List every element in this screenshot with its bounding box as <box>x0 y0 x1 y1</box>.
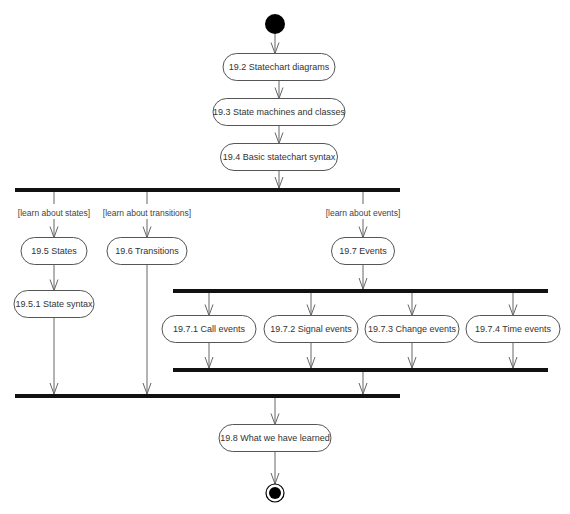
activity-node: 19.2 Statechart diagrams <box>223 54 335 81</box>
activity-node: 19.5.1 State syntax <box>14 291 94 318</box>
transition-arrow <box>408 343 416 369</box>
node-label: 19.6 Transitions <box>115 246 179 256</box>
final-node-icon <box>266 484 284 502</box>
node-label: 19.4 Basic statechart syntax <box>223 152 336 162</box>
activity-node: 19.5 States <box>21 238 87 265</box>
transition-arrow <box>271 34 279 54</box>
sync-bar-join-main <box>15 394 400 398</box>
activity-node: 19.3 State machines and classes <box>213 99 346 126</box>
sync-bar-join-events <box>173 368 548 372</box>
transition-arrow <box>509 343 517 369</box>
activity-node: 19.6 Transitions <box>107 238 187 265</box>
sync-bar-fork-main <box>15 188 400 192</box>
node-label: 19.7.2 Signal events <box>270 324 352 334</box>
guard-label: [learn about transitions] <box>103 208 191 218</box>
activity-node: 19.7.2 Signal events <box>264 316 358 343</box>
activity-node: 19.8 What we have learned <box>219 425 331 452</box>
transition-arrow <box>271 452 279 485</box>
transition-arrow <box>143 219 151 238</box>
transition-arrow <box>359 372 367 394</box>
node-label: 19.7.4 Time events <box>475 324 552 334</box>
transition-arrow <box>271 398 279 425</box>
node-label: 19.5.1 State syntax <box>15 299 93 309</box>
transition-arrow <box>205 293 213 316</box>
transition-arrow <box>275 81 283 99</box>
node-label: 19.5 States <box>31 246 77 256</box>
transition-arrow <box>143 265 151 395</box>
transition-arrow <box>50 219 58 238</box>
node-label: 19.7.1 Call events <box>173 324 246 334</box>
activity-node: 19.7.4 Time events <box>466 316 560 343</box>
activity-diagram: 19.2 Statechart diagrams19.3 State machi… <box>0 0 570 514</box>
initial-node-icon <box>265 14 285 34</box>
transition-arrow <box>359 265 367 290</box>
transition-arrow <box>408 293 416 316</box>
node-label: 19.8 What we have learned <box>220 433 330 443</box>
transition-arrow <box>50 265 58 291</box>
node-label: 19.7 Events <box>339 246 387 256</box>
activity-node: 19.7.1 Call events <box>162 316 256 343</box>
node-label: 19.2 Statechart diagrams <box>229 62 330 72</box>
synchronization-bars <box>15 188 548 398</box>
activity-nodes: 19.2 Statechart diagrams19.3 State machi… <box>14 54 560 452</box>
transition-arrow <box>307 293 315 316</box>
transition-arrow <box>275 126 283 144</box>
guard-label: [learn about events] <box>326 208 401 218</box>
transition-arrow <box>50 318 58 395</box>
activity-node: 19.7.3 Change events <box>365 316 459 343</box>
transition-arrow <box>307 343 315 369</box>
transition-arrow <box>275 171 283 189</box>
transition-arrow <box>509 293 517 316</box>
sync-bar-fork-events <box>173 289 548 293</box>
activity-node: 19.4 Basic statechart syntax <box>221 144 338 171</box>
guard-label: [learn about states] <box>18 208 90 218</box>
transition-arrow <box>359 219 367 238</box>
guard-labels: [learn about states][learn about transit… <box>18 208 400 218</box>
node-label: 19.3 State machines and classes <box>213 107 346 117</box>
activity-node: 19.7 Events <box>332 238 395 265</box>
node-label: 19.7.3 Change events <box>368 324 457 334</box>
transition-arrow <box>205 343 213 369</box>
